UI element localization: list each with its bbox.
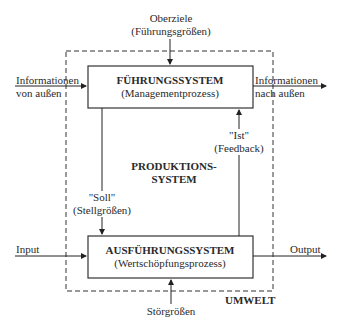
goals-line1: Oberziele [131, 12, 210, 25]
execution-system-subtitle: (Wertschöpfungsprozess) [106, 257, 235, 270]
leadership-system-subtitle: (Managementprozess) [117, 87, 224, 100]
production-system-line2: SYSTEM [131, 173, 217, 186]
target-line2: (Stellgrößen) [73, 204, 131, 217]
execution-system-label: AUSFÜHRUNGSSYSTEM (Wertschöpfungsprozess… [106, 244, 235, 270]
info-in-line1: Informationen [16, 74, 79, 87]
target-line1: "Soll" [73, 191, 131, 204]
goals-line2: (Führungsgrößen) [131, 25, 210, 38]
info-out-line2: nach außen [255, 87, 318, 100]
target-label: "Soll" (Stellgrößen) [73, 191, 131, 217]
output-label: Output [290, 243, 321, 256]
leadership-system-title: FÜHRUNGSSYSTEM [117, 74, 224, 87]
input-label: Input [16, 243, 39, 256]
goals-label: Oberziele (Führungsgrößen) [131, 12, 210, 38]
feedback-line1: "Ist" [214, 129, 263, 142]
production-system-label: PRODUKTIONS- SYSTEM [131, 160, 217, 186]
info-in-label: Informationen von außen [16, 74, 79, 100]
production-system-line1: PRODUKTIONS- [131, 160, 217, 173]
info-in-line2: von außen [16, 87, 79, 100]
environment-label: UMWELT [225, 294, 275, 307]
disturbance-label: Störgrößen [147, 305, 196, 318]
info-out-label: Informationen nach außen [255, 74, 318, 100]
feedback-label: "Ist" (Feedback) [214, 129, 263, 155]
execution-system-title: AUSFÜHRUNGSSYSTEM [106, 244, 235, 257]
info-out-line1: Informationen [255, 74, 318, 87]
leadership-system-label: FÜHRUNGSSYSTEM (Managementprozess) [117, 74, 224, 100]
feedback-line2: (Feedback) [214, 142, 263, 155]
